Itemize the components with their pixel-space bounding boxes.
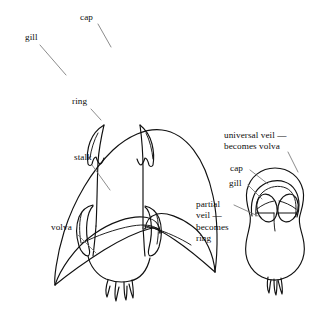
label-gill: gill bbox=[25, 32, 38, 43]
leader-universal-veil bbox=[288, 152, 298, 172]
label-universal-veil: universal veil — becomes volva bbox=[224, 130, 287, 153]
stalk-right-side bbox=[140, 125, 143, 228]
button-stem-stub bbox=[274, 213, 275, 231]
label-cap-button: cap bbox=[230, 163, 243, 174]
root-tendril-3 bbox=[124, 282, 127, 300]
gill-oval-right bbox=[275, 192, 300, 224]
label-partial-veil: partial veil — becomes ring bbox=[196, 199, 229, 245]
stalk-lower-right bbox=[143, 228, 145, 256]
label-volva: volva bbox=[51, 222, 72, 233]
label-cap: cap bbox=[80, 12, 93, 23]
mushroom-anatomy-diagram: cap gill ring stalk volva universal veil… bbox=[0, 0, 320, 316]
leader-cap bbox=[98, 24, 111, 47]
leader-gill bbox=[40, 45, 66, 75]
gill-left-divider bbox=[257, 201, 274, 209]
root-tendril-2 bbox=[115, 282, 119, 301]
root-tendril-4 bbox=[129, 280, 133, 298]
label-stalk: stalk bbox=[74, 152, 92, 163]
button-root-tendril-2 bbox=[274, 279, 277, 295]
mature-mushroom-drawing bbox=[40, 24, 217, 301]
diagram-canvas bbox=[0, 0, 320, 316]
label-ring: ring bbox=[72, 96, 87, 107]
leader-stalk bbox=[92, 165, 110, 190]
button-mushroom-drawing bbox=[234, 152, 304, 295]
root-tendril-1 bbox=[106, 280, 110, 297]
label-gill-button: gill bbox=[229, 178, 242, 189]
leader-ring bbox=[91, 109, 101, 120]
volva-bulb bbox=[88, 256, 150, 282]
leader-partial-veil bbox=[234, 205, 258, 216]
universal-veil-outline bbox=[246, 168, 305, 280]
button-root-tendril-3 bbox=[278, 278, 282, 294]
gill-right-divider bbox=[279, 201, 296, 209]
